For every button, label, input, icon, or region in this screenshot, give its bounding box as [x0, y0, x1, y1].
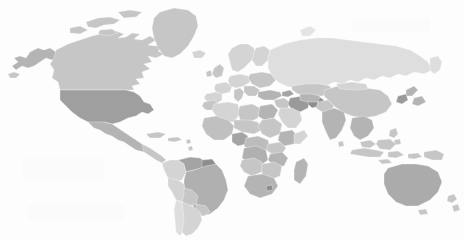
country-lesotho [266, 185, 273, 191]
country-sri-lanka [338, 141, 344, 147]
country-central-asia [300, 94, 320, 102]
world-map-svg [0, 0, 464, 240]
world-map-figure [0, 0, 464, 240]
country-tasmania [418, 209, 428, 215]
